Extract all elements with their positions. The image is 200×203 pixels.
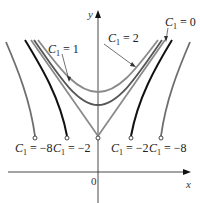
open-circle-c1-neg8-left [33, 136, 37, 140]
label-c1-neg8-right: C1 = −8 [149, 142, 187, 159]
label-c1-neg2-right: C1 = −2 [111, 142, 149, 159]
open-circle-c1-neg2-left [65, 136, 69, 140]
solution-curves-figure: y x 0 C1 = 1 C1 = 2 C1 = 0 C1 = −8 C1 = … [0, 0, 200, 203]
open-circle-c1-0-vertex [96, 136, 100, 140]
label-c1-2: C1 = 2 [108, 32, 139, 49]
label-c1-neg2-left: C1 = −2 [53, 142, 91, 159]
origin-label: 0 [91, 176, 97, 187]
open-circle-c1-neg8-right [159, 136, 163, 140]
x-axis-arrow-icon [183, 169, 191, 175]
curve-c1-neg8-left [6, 42, 35, 136]
label-c1-0: C1 = 0 [165, 16, 196, 33]
y-axis-arrow-icon [95, 10, 101, 18]
y-axis-label: y [88, 9, 93, 20]
leader-c1-2-arrow-icon [130, 62, 136, 67]
curve-c1-neg8-right [161, 42, 190, 136]
label-c1-neg8-left: C1 = −8 [15, 142, 53, 159]
x-axis-label: x [186, 179, 191, 190]
label-c1-1: C1 = 1 [48, 43, 79, 60]
open-circle-c1-neg2-right [129, 136, 133, 140]
